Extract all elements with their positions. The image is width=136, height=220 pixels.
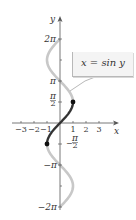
x-tick-label: −3 bbox=[15, 125, 27, 134]
y-axis-label: y bbox=[49, 14, 56, 24]
y-tick-label-neg-pi: −π bbox=[44, 160, 59, 170]
svg-text:2: 2 bbox=[50, 99, 55, 108]
curve-legend-box: x = sin y bbox=[72, 52, 133, 77]
svg-text:2: 2 bbox=[72, 141, 77, 150]
y-tick-label-2pi: 2π bbox=[43, 34, 57, 44]
x-axis-label: x bbox=[114, 126, 119, 136]
x-tick-label: −1 bbox=[40, 125, 52, 134]
y-tick-label-pi: π bbox=[49, 76, 57, 86]
endpoint-dot-top bbox=[71, 100, 76, 105]
endpoint-dot-bottom bbox=[45, 142, 50, 147]
x-tick-label: 2 bbox=[83, 125, 88, 134]
y-tick-label-neg-2pi: −2π bbox=[38, 202, 58, 212]
plot-area: y x −3 −2 −1 1 2 3 2π π π 2 − π 2 −π −2π bbox=[0, 0, 136, 220]
y-tick-label-neg-pi-over-2: − π 2 bbox=[66, 133, 79, 150]
y-tick-label-pi-over-2: π 2 bbox=[49, 91, 57, 108]
legend-leader-line bbox=[70, 77, 95, 91]
x-tick-label: −2 bbox=[28, 125, 40, 134]
x-tick-label: 3 bbox=[96, 125, 101, 134]
curve-legend-label: x = sin y bbox=[73, 57, 133, 68]
